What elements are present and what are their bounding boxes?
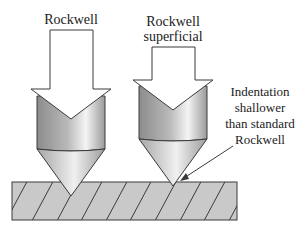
note-line2: shallower bbox=[235, 100, 286, 115]
note-line3: than standard bbox=[225, 116, 295, 131]
note-line1: Indentation bbox=[230, 84, 290, 99]
rockwell-label: Rockwell bbox=[44, 12, 98, 27]
note-line4: Rockwell bbox=[235, 132, 285, 147]
superficial-label-line1: Rockwell bbox=[146, 14, 200, 29]
rockwell-diagram: Rockwell Rockwell superficial Indentatio… bbox=[0, 0, 305, 231]
workpiece-block bbox=[0, 176, 253, 231]
superficial-label-line2: superficial bbox=[143, 29, 202, 44]
